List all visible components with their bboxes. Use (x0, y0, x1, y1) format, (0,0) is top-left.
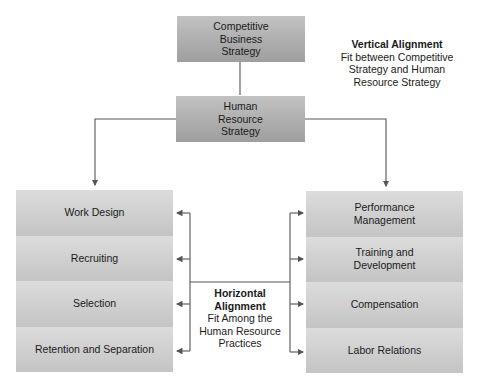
practice-performance-management: Performance Management (306, 191, 463, 237)
practice-recruiting: Recruiting (16, 236, 173, 282)
competitive-business-strategy-box: Competitive Business Strategy (177, 16, 305, 62)
horizontal-alignment-title: Alignment (214, 300, 265, 312)
vertical-alignment-line: Fit between Competitive (322, 51, 472, 64)
horizontal-alignment-label: Horizontal Alignment Fit Among the Human… (192, 287, 288, 350)
vertical-alignment-line: Resource Strategy (322, 76, 472, 89)
vertical-alignment-label: Vertical Alignment Fit between Competiti… (322, 38, 472, 88)
vertical-alignment-title: Vertical Alignment (351, 38, 442, 50)
practice-training-development: Training and Development (306, 237, 463, 283)
horizontal-alignment-line: Practices (192, 337, 288, 350)
horizontal-alignment-line: Fit Among the (192, 312, 288, 325)
hr-box-line: Strategy (218, 125, 263, 138)
practice-work-design: Work Design (16, 190, 173, 236)
right-practices-stack: Performance Management Training and Deve… (306, 191, 463, 373)
practice-labor-relations: Labor Relations (306, 328, 463, 374)
human-resource-strategy-box: Human Resource Strategy (176, 96, 305, 142)
top-box-line: Competitive (213, 20, 268, 33)
vertical-alignment-line: Strategy and Human (322, 63, 472, 76)
hr-box-line: Resource (218, 113, 263, 126)
practice-retention-separation: Retention and Separation (16, 327, 173, 373)
hr-box-line: Human (218, 100, 263, 113)
left-practices-stack: Work Design Recruiting Selection Retenti… (16, 190, 173, 372)
horizontal-alignment-line: Human Resource (192, 325, 288, 338)
practice-compensation: Compensation (306, 282, 463, 328)
practice-selection: Selection (16, 281, 173, 327)
top-box-line: Business (213, 33, 268, 46)
horizontal-alignment-title: Horizontal (214, 287, 265, 299)
top-box-line: Strategy (213, 45, 268, 58)
